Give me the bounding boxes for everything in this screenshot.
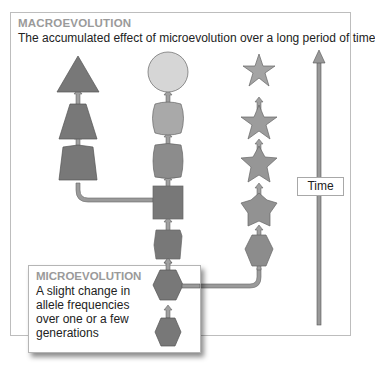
- hexagon-shape: [155, 318, 181, 346]
- connector: [182, 284, 200, 288]
- hexagon-shape: [153, 270, 183, 300]
- step-arrow: [164, 305, 172, 318]
- step-arrow: [164, 258, 172, 271]
